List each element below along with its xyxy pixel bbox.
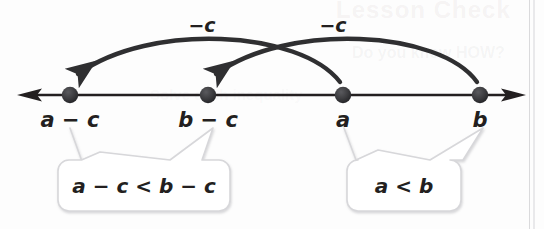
callout-right bbox=[344, 128, 483, 211]
callout-left bbox=[58, 128, 230, 211]
callout-right-text: a < b bbox=[375, 174, 434, 198]
arc-a-to-a-minus-c bbox=[78, 39, 340, 82]
callout-left-shape bbox=[58, 128, 230, 211]
point-dot-b bbox=[472, 87, 488, 103]
point-dot-a bbox=[335, 87, 351, 103]
tick-label-b-minus-c: b − c bbox=[178, 108, 238, 132]
arc-b-to-b-minus-c bbox=[216, 39, 477, 82]
callout-left-text: a − c < b − c bbox=[72, 174, 216, 198]
callout-right-shape bbox=[344, 128, 483, 211]
tick-label-a: a bbox=[336, 108, 350, 132]
arc-label-minus-c-left: −c bbox=[188, 14, 215, 36]
tick-label-a-minus-c: a − c bbox=[41, 108, 100, 132]
arc-label-minus-c-right: −c bbox=[319, 14, 346, 36]
point-dot-a-minus-c bbox=[62, 87, 78, 103]
point-dot-b-minus-c bbox=[200, 87, 216, 103]
tick-label-b: b bbox=[472, 108, 487, 132]
number-line bbox=[17, 89, 526, 102]
number-line-figure: Lesson Check Do you know HOW? Solve each… bbox=[0, 0, 544, 229]
